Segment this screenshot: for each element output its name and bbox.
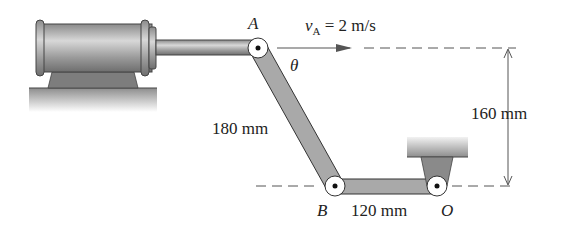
label-180mm: 180 mm xyxy=(212,119,268,139)
hydraulic-cylinder xyxy=(40,24,152,72)
piston-rod xyxy=(156,40,256,55)
ground-base xyxy=(29,88,157,112)
velocity-label: vA = 2 m/s xyxy=(305,16,376,37)
ground-O xyxy=(407,137,468,157)
label-A: A xyxy=(248,14,258,34)
pin-O xyxy=(427,176,447,196)
pin-B xyxy=(325,176,345,196)
pin-A xyxy=(248,38,268,58)
label-O: O xyxy=(441,201,453,221)
link-BO xyxy=(335,179,437,194)
label-120mm: 120 mm xyxy=(351,201,407,221)
label-160mm: 160 mm xyxy=(471,104,527,124)
angle-theta-label: θ xyxy=(290,56,298,76)
cylinder-mount xyxy=(48,72,138,88)
label-B: B xyxy=(317,201,327,221)
